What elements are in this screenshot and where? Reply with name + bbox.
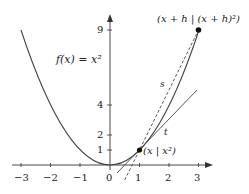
y-axis-arrow-icon [107, 14, 113, 22]
x-tick-label: 1 [135, 173, 141, 183]
point-q-label: (x + h | (x + h)²) [157, 14, 240, 24]
x-axis-arrow-icon [205, 162, 213, 168]
point-p [137, 147, 142, 152]
secant-line [125, 30, 199, 180]
x-tick-label: 0 [106, 173, 112, 183]
y-tick-label: 9 [97, 25, 103, 35]
x-tick-label: −2 [43, 173, 58, 183]
secant-label: s [160, 80, 165, 89]
y-tick-label: 1 [97, 145, 103, 155]
y-tick-label: 4 [97, 100, 103, 110]
tangent-line [117, 90, 197, 173]
parabola-diagram [0, 0, 249, 194]
x-tick-label: −3 [14, 173, 29, 183]
y-tick-label: 2 [97, 130, 103, 140]
y-axis [107, 14, 113, 170]
x-tick-label: −1 [73, 173, 88, 183]
point-q [196, 27, 202, 33]
function-label: f(x) = x² [56, 54, 102, 65]
tangent-label: t [164, 128, 168, 137]
x-tick-label: 2 [165, 173, 171, 183]
x-tick-label: 3 [194, 173, 200, 183]
point-p-label: (x | x²) [143, 146, 176, 156]
